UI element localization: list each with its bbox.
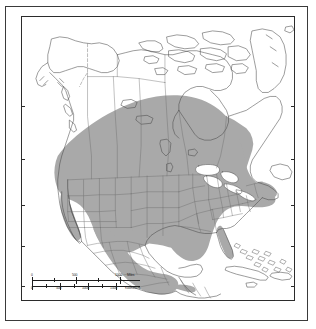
distribution-range-shading (54, 95, 277, 294)
map-neatline: 50 40 30 20 10 50 40 30 20 10 (21, 16, 295, 301)
scale-miles-0: 0 (31, 274, 33, 277)
map-canvas (22, 17, 294, 300)
scale-miles-500: 500 (72, 274, 77, 277)
scale-miles-1000: 1000 (115, 274, 122, 277)
map-figure: 50 40 30 20 10 50 40 30 20 10 (0, 0, 316, 329)
scale-km-1500: 1500 (110, 287, 117, 290)
scale-km-0: 0 (31, 287, 33, 290)
scale-bar: 0 500 1000 Miles 0 500 1000 1500 Kilomet… (32, 274, 140, 290)
scale-km-1000: 1000 (82, 287, 89, 290)
scale-miles-unit: Miles (127, 274, 134, 277)
scale-km-unit: Kilometers (125, 287, 140, 290)
scale-km-500: 500 (56, 287, 61, 290)
